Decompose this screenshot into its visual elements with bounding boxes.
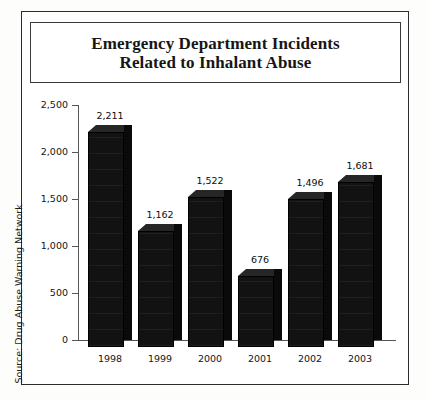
bar-side-face-2003 bbox=[374, 175, 382, 340]
bar-side-face-1998 bbox=[124, 125, 132, 340]
chart-title-box: Emergency Department Incidents Related t… bbox=[30, 22, 401, 83]
bar-side-face-2001 bbox=[274, 269, 282, 340]
bar-value-label-1999: 1,162 bbox=[125, 210, 195, 220]
bar-value-label-1998: 2,211 bbox=[75, 111, 145, 121]
bar-value-label-2002: 1,496 bbox=[275, 178, 345, 188]
bar-2000 bbox=[188, 197, 224, 347]
bar-top-face-2003 bbox=[338, 175, 374, 182]
bar-2003 bbox=[338, 182, 374, 347]
bar-top-face-1998 bbox=[88, 125, 124, 132]
chart-figure: Emergency Department Incidents Related t… bbox=[0, 0, 428, 401]
y-axis-labels: 05001,0001,5002,0002,500 bbox=[16, 0, 68, 401]
bar-2002 bbox=[288, 199, 324, 347]
y-axis-tick-label: 1,000 bbox=[22, 241, 68, 251]
y-axis-tick bbox=[72, 340, 78, 341]
bar-value-label-2001: 676 bbox=[225, 255, 295, 265]
y-axis-tick-label: 2,500 bbox=[22, 100, 68, 110]
bar-side-face-1999 bbox=[174, 224, 182, 340]
x-axis-tick-label-2003: 2003 bbox=[325, 354, 395, 364]
y-axis-tick-label: 0 bbox=[22, 335, 68, 345]
bar-top-face-2001 bbox=[238, 269, 274, 276]
bar-1998 bbox=[88, 132, 124, 347]
bar-value-label-2000: 1,522 bbox=[175, 176, 245, 186]
page-title: Emergency Department Incidents Related t… bbox=[91, 34, 340, 72]
bar-side-face-2002 bbox=[324, 192, 332, 340]
bar-top-face-1999 bbox=[138, 224, 174, 231]
bar-top-face-2000 bbox=[188, 190, 224, 197]
bar-side-face-2000 bbox=[224, 190, 232, 340]
bar-1999 bbox=[138, 231, 174, 347]
bar-2001 bbox=[238, 276, 274, 347]
bar-value-label-2003: 1,681 bbox=[325, 161, 395, 171]
bar-top-face-2002 bbox=[288, 192, 324, 199]
y-axis-tick-label: 2,000 bbox=[22, 147, 68, 157]
y-axis-tick-label: 500 bbox=[22, 288, 68, 298]
y-axis-tick-label: 1,500 bbox=[22, 194, 68, 204]
